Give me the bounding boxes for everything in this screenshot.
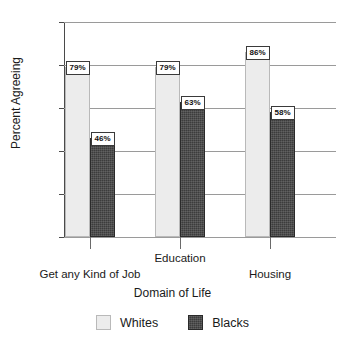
legend-label: Blacks [212, 316, 249, 330]
legend-label: Whites [120, 316, 158, 330]
bar-value-label: 58% [270, 106, 294, 120]
bar-value-label: 63% [180, 96, 204, 110]
x-axis-category-label: Get any Kind of Job [10, 268, 170, 280]
bar-whites-1[interactable]: 79% [155, 67, 180, 237]
bar-blacks-1[interactable]: 63% [180, 102, 205, 237]
bar-value-label: 86% [245, 46, 269, 60]
x-axis-title: Domain of Life [0, 286, 345, 300]
bar-whites-2[interactable]: 86% [245, 52, 270, 237]
legend-swatch-blacks [188, 315, 203, 330]
bar-group: 79%63% [155, 22, 205, 237]
y-axis-title: Percent Agreeing [9, 43, 23, 163]
plot-area: 79%46%79%63%86%58% [64, 22, 336, 237]
legend-item-blacks[interactable]: Blacks [188, 315, 249, 330]
x-axis-tick-mark [90, 237, 91, 249]
bar-value-label: 79% [65, 61, 89, 75]
bar-group: 86%58% [245, 22, 295, 237]
bar-group: 79%46% [65, 22, 115, 237]
x-axis-category-label: Education [100, 252, 260, 264]
chart-legend: WhitesBlacks [0, 315, 345, 330]
gridline [64, 237, 336, 238]
bar-whites-0[interactable]: 79% [65, 67, 90, 237]
x-axis-tick-mark [180, 237, 181, 249]
legend-swatch-whites [96, 315, 111, 330]
bar-value-label: 79% [155, 61, 179, 75]
bar-chart: Percent Agreeing 0%20%40%60%80%100% 79%4… [0, 0, 345, 354]
x-axis-tick-mark [270, 237, 271, 249]
bar-blacks-0[interactable]: 46% [90, 138, 115, 237]
bar-blacks-2[interactable]: 58% [270, 112, 295, 237]
x-axis-category-label: Housing [190, 268, 345, 280]
legend-item-whites[interactable]: Whites [96, 315, 158, 330]
bar-value-label: 46% [90, 132, 114, 146]
